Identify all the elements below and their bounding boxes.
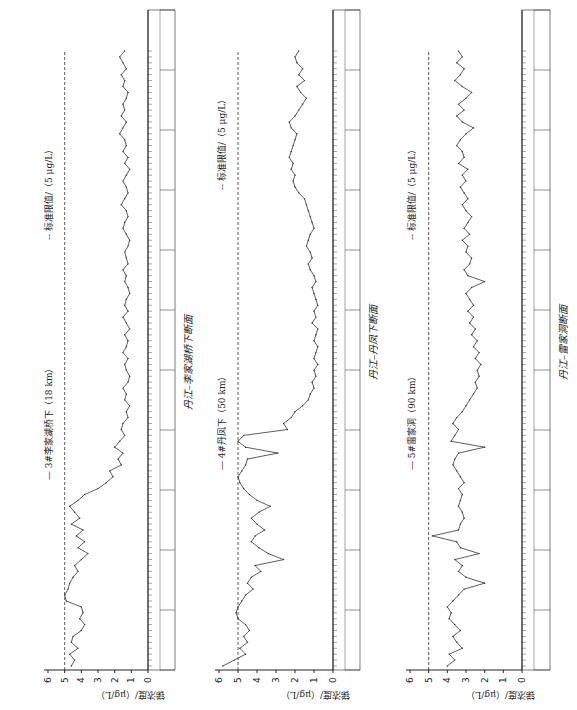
data-point — [127, 287, 128, 288]
data-point — [72, 577, 73, 578]
limit-legend: -- 标准限值/（5 μg/L） — [42, 145, 55, 240]
data-point — [458, 488, 459, 489]
data-point — [465, 293, 466, 294]
data-point — [467, 198, 468, 199]
data-point — [447, 606, 448, 607]
data-point — [77, 648, 78, 649]
data-point — [460, 523, 461, 524]
data-point — [452, 636, 453, 637]
chart-3-plot: 0123456 — [390, 0, 570, 710]
y-tick-label: 2 — [110, 677, 120, 683]
data-point — [122, 62, 123, 63]
data-point — [298, 109, 299, 110]
limit-legend: -- 标准限值/（5 μg/L） — [405, 145, 418, 240]
data-point — [289, 121, 290, 122]
data-point — [311, 257, 312, 258]
y-tick-label: 0 — [517, 677, 527, 683]
data-point — [306, 245, 307, 246]
data-point — [66, 600, 67, 601]
data-point — [473, 127, 474, 128]
data-point — [460, 476, 461, 477]
data-point — [122, 352, 123, 353]
data-point — [463, 482, 464, 483]
data-point — [460, 186, 461, 187]
data-point — [124, 334, 125, 335]
data-point — [462, 56, 463, 57]
data-point — [467, 245, 468, 246]
data-point — [127, 382, 128, 383]
data-point — [454, 80, 455, 81]
data-point — [126, 370, 127, 371]
data-point — [313, 228, 314, 229]
data-point — [241, 600, 242, 601]
data-point — [71, 642, 72, 643]
data-point — [129, 405, 130, 406]
data-point — [475, 382, 476, 383]
data-point — [456, 115, 457, 116]
data-point — [458, 50, 459, 51]
data-point — [292, 145, 293, 146]
data-point — [296, 62, 297, 63]
data-point — [471, 92, 472, 93]
data-point — [478, 352, 479, 353]
data-point — [124, 80, 125, 81]
data-point — [454, 435, 455, 436]
data-point — [310, 269, 311, 270]
data-point — [122, 269, 123, 270]
data-point — [239, 482, 240, 483]
data-point — [294, 115, 295, 116]
data-point — [463, 68, 464, 69]
data-point — [298, 192, 299, 193]
data-point — [121, 464, 122, 465]
data-point — [124, 109, 125, 110]
date-table — [522, 10, 550, 670]
data-point — [480, 364, 481, 365]
data-point — [129, 293, 130, 294]
data-point — [447, 665, 448, 666]
data-point — [79, 618, 80, 619]
data-point — [478, 553, 479, 554]
date-table — [148, 10, 175, 670]
data-point — [256, 500, 257, 501]
data-point — [454, 659, 455, 660]
data-point — [458, 429, 459, 430]
data-point — [126, 98, 127, 99]
data-point — [460, 630, 461, 631]
data-point — [432, 535, 433, 536]
data-point — [467, 222, 468, 223]
chart-2-plot: 0123456 — [205, 0, 380, 710]
y-tick-label: 2 — [480, 677, 490, 683]
data-point — [315, 376, 316, 377]
data-point — [64, 594, 65, 595]
rotated-figure-page: 0123456 锑浓度/（μg/L） — 3#李家湖桥下（18 km） -- 标… — [0, 0, 577, 710]
data-point — [308, 240, 309, 241]
data-point — [71, 665, 72, 666]
data-point — [313, 370, 314, 371]
data-point — [463, 228, 464, 229]
data-point — [315, 281, 316, 282]
data-point — [456, 145, 457, 146]
chart-1-plot: 0123456 — [20, 0, 195, 710]
data-point — [313, 275, 314, 276]
data-point — [298, 50, 299, 51]
data-point — [454, 559, 455, 560]
concentration-series-line — [432, 51, 484, 666]
data-point — [69, 654, 70, 655]
data-point — [129, 169, 130, 170]
data-point — [458, 571, 459, 572]
data-point — [292, 180, 293, 181]
data-point — [121, 429, 122, 430]
data-point — [463, 192, 464, 193]
data-point — [124, 139, 125, 140]
data-point — [460, 139, 461, 140]
y-axis-label: 锑浓度/（μg/L） — [466, 689, 535, 702]
y-tick-label: 2 — [290, 677, 300, 683]
data-point — [122, 104, 123, 105]
data-point — [454, 624, 455, 625]
data-point — [124, 281, 125, 282]
panel-caption: 丹江–丹凤下断面 — [365, 305, 380, 380]
data-point — [126, 346, 127, 347]
data-point — [311, 222, 312, 223]
data-point — [465, 98, 466, 99]
data-point — [465, 405, 466, 406]
